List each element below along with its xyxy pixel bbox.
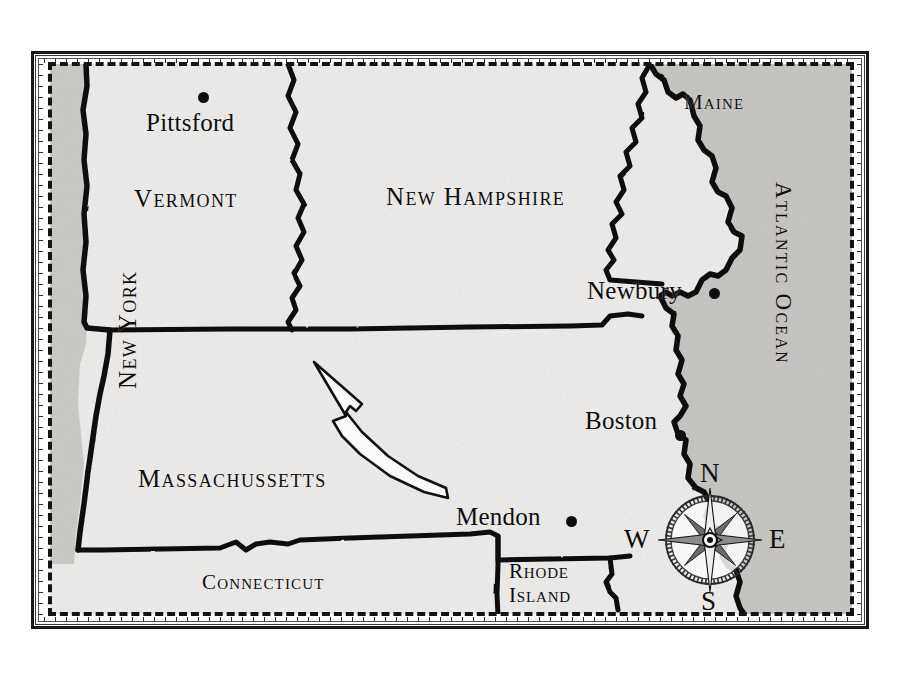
state-label-connecticut: Connecticut: [202, 572, 325, 593]
border-connecticut-rhode-island: [497, 536, 498, 614]
state-label-rhode-island-line2: Island: [509, 584, 571, 608]
state-label-new-york: New York: [115, 271, 140, 389]
city-label-boston: Boston: [585, 408, 657, 433]
state-label-massachussetts: Massachussetts: [138, 466, 327, 491]
city-marker-mendon: [566, 516, 577, 527]
compass-label-north: N: [700, 458, 720, 489]
compass-rose: N E S W: [628, 462, 792, 618]
state-label-rhode-island-line1: Rhode: [509, 560, 571, 584]
water-label-atlantic-ocean: Atlantic Ocean: [772, 182, 795, 365]
city-marker-newbury: [709, 288, 720, 299]
state-label-new-hampshire: New Hampshire: [386, 184, 565, 209]
compass-label-south: S: [701, 586, 716, 617]
city-label-pittsford: Pittsford: [146, 110, 234, 135]
city-label-newbury: Newbury: [587, 278, 682, 303]
map-figure: New York Vermont New Hampshire Maine Mas…: [0, 0, 901, 675]
compass-label-west: W: [624, 524, 649, 555]
state-label-vermont: Vermont: [134, 186, 238, 211]
compass-label-east: E: [769, 524, 786, 555]
state-label-rhode-island: Rhode Island: [509, 560, 571, 607]
state-label-maine: Maine: [684, 92, 744, 113]
city-marker-pittsford: [198, 92, 209, 103]
city-marker-boston: [675, 430, 686, 441]
city-label-mendon: Mendon: [456, 504, 541, 529]
